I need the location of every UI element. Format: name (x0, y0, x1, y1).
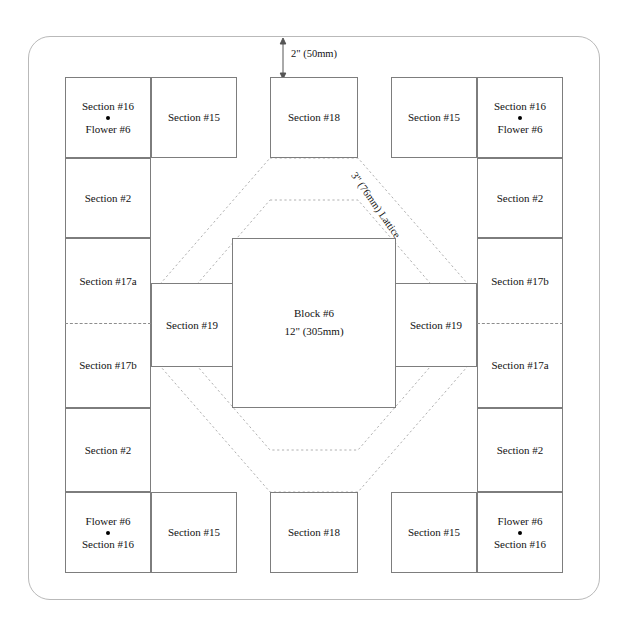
cell-section-16-bottom-right[interactable]: Flower #6 Section #16 (477, 492, 563, 573)
cell-label: Section #18 (288, 109, 340, 126)
cell-section-18-top[interactable]: Section #18 (270, 77, 358, 158)
center-guide-right (477, 323, 563, 324)
cell-section-15-top-left[interactable]: Section #15 (151, 77, 237, 158)
cell-section-15-top-right[interactable]: Section #15 (391, 77, 477, 158)
cell-sublabel: Flower #6 (86, 513, 131, 530)
cell-section-16-bottom-left[interactable]: Flower #6 Section #16 (65, 492, 151, 573)
cell-section-18-bottom[interactable]: Section #18 (270, 492, 358, 573)
cell-section-16-top-right[interactable]: Section #16 Flower #6 (477, 77, 563, 158)
cell-label: Section #15 (408, 109, 460, 126)
cell-section-2-left-lower[interactable]: Section #2 (65, 408, 151, 492)
cell-label: Section #17a (79, 273, 136, 290)
center-block-name: Block #6 (294, 305, 334, 323)
flower-dot-icon (106, 531, 110, 535)
flower-dot-icon (518, 116, 522, 120)
cell-section-2-right-upper[interactable]: Section #2 (477, 158, 563, 238)
cell-label: Section #2 (497, 442, 544, 459)
diagram-canvas: 2" (50mm) 3" (76mm) Lattice Section #16 … (0, 0, 628, 624)
cell-label: Section #19 (166, 317, 218, 334)
cell-section-2-right-lower[interactable]: Section #2 (477, 408, 563, 492)
cell-section-15-bottom-right[interactable]: Section #15 (391, 492, 477, 573)
center-block-size: 12" (305mm) (284, 323, 343, 341)
cell-sublabel: Flower #6 (498, 121, 543, 138)
cell-label: Section #2 (85, 442, 132, 459)
center-block-6[interactable]: Block #6 12" (305mm) (232, 238, 396, 408)
cell-label: Section #15 (168, 109, 220, 126)
cell-section-17b-right[interactable]: Section #17b (477, 238, 563, 323)
cell-label: Section #17a (491, 357, 548, 374)
cell-label: Section #18 (288, 524, 340, 541)
cell-section-19-left[interactable]: Section #19 (151, 283, 233, 367)
cell-label: Section #16 (494, 98, 546, 115)
cell-label: Section #15 (408, 524, 460, 541)
cell-section-17a-right[interactable]: Section #17a (477, 323, 563, 408)
flower-dot-icon (106, 116, 110, 120)
cell-label: Section #19 (410, 317, 462, 334)
cell-sublabel: Flower #6 (86, 121, 131, 138)
cell-label: Section #17b (491, 273, 549, 290)
cell-section-2-left-upper[interactable]: Section #2 (65, 158, 151, 238)
cell-label: Section #16 (82, 98, 134, 115)
cell-section-17a-left[interactable]: Section #17a (65, 238, 151, 323)
cell-label: Section #2 (497, 190, 544, 207)
cell-label: Section #16 (494, 536, 546, 553)
cell-label: Section #17b (79, 357, 137, 374)
dimension-label-top: 2" (50mm) (291, 48, 337, 59)
center-guide-left (65, 323, 151, 324)
cell-section-17b-left[interactable]: Section #17b (65, 323, 151, 408)
flower-dot-icon (518, 531, 522, 535)
cell-section-15-bottom-left[interactable]: Section #15 (151, 492, 237, 573)
cell-section-16-top-left[interactable]: Section #16 Flower #6 (65, 77, 151, 158)
cell-label: Section #16 (82, 536, 134, 553)
cell-label: Section #2 (85, 190, 132, 207)
cell-label: Section #15 (168, 524, 220, 541)
cell-sublabel: Flower #6 (498, 513, 543, 530)
cell-section-19-right[interactable]: Section #19 (395, 283, 477, 367)
